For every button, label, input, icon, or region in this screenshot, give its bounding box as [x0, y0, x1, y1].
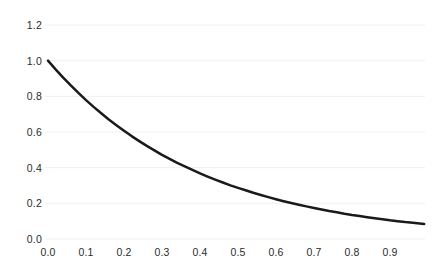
y-tick-label: 0.8 [27, 90, 42, 102]
gridlines-group [45, 25, 425, 239]
x-tick-label: 0.6 [268, 246, 283, 258]
x-tick-label: 0.8 [344, 246, 359, 258]
plot-canvas [0, 0, 441, 275]
series-line [48, 61, 424, 224]
x-tick-label: 0.1 [78, 246, 93, 258]
y-tick-label: 0.0 [27, 233, 42, 245]
x-tick-label: 0.4 [192, 246, 207, 258]
y-tick-label: 0.6 [27, 126, 42, 138]
x-tick-label: 0.0 [40, 246, 55, 258]
y-tick-label: 0.2 [27, 197, 42, 209]
y-tick-label: 1.2 [27, 19, 42, 31]
chart-figure: 0.00.20.40.60.81.01.2 0.00.10.20.30.40.5… [0, 0, 441, 275]
x-tick-label: 0.5 [230, 246, 245, 258]
x-tick-label: 0.2 [116, 246, 131, 258]
series-group [48, 61, 424, 224]
y-tick-label: 0.4 [27, 162, 42, 174]
y-tick-label: 1.0 [27, 55, 42, 67]
x-tick-label: 0.3 [154, 246, 169, 258]
x-tick-label: 0.9 [382, 246, 397, 258]
x-tick-label: 0.7 [306, 246, 321, 258]
